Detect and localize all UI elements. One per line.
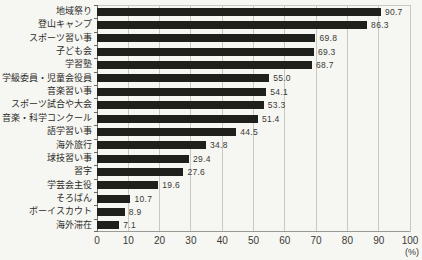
y-axis-tick — [94, 139, 97, 140]
y-axis-tick — [94, 58, 97, 59]
category-label: 学級委員・児童会役員 — [0, 72, 92, 85]
value-label: 34.8 — [210, 140, 228, 150]
value-label: 86.3 — [371, 20, 389, 30]
value-label: 69.8 — [319, 33, 337, 43]
value-label: 51.4 — [262, 114, 280, 124]
category-label: スポーツ習い事 — [0, 32, 92, 45]
value-label: 55.0 — [273, 73, 291, 83]
x-tick-label: 90 — [373, 235, 384, 246]
category-label: 海外旅行 — [0, 139, 92, 152]
bar — [97, 88, 266, 96]
y-axis-tick — [94, 32, 97, 33]
value-label: 54.1 — [270, 87, 288, 97]
y-axis-tick — [94, 85, 97, 86]
bar — [97, 195, 130, 203]
x-axis-line — [97, 231, 410, 232]
gridline — [316, 5, 317, 232]
bar — [97, 8, 381, 16]
y-axis-tick — [94, 165, 97, 166]
category-label: 海外滞在 — [0, 219, 92, 232]
category-label: 地域祭り — [0, 5, 92, 18]
y-axis-tick — [94, 205, 97, 206]
x-tick-label: 40 — [217, 235, 228, 246]
bar — [97, 208, 125, 216]
x-tick-label: 0 — [94, 235, 100, 246]
gridline — [347, 5, 348, 232]
gridline — [410, 5, 411, 232]
bar — [97, 115, 258, 123]
y-axis-tick — [94, 45, 97, 46]
x-tick-label: 60 — [279, 235, 290, 246]
category-label: 学習塾 — [0, 58, 92, 71]
bar — [97, 221, 119, 229]
y-axis-tick — [94, 179, 97, 180]
bar — [97, 48, 314, 56]
gridline — [378, 5, 379, 232]
y-axis-tick — [94, 125, 97, 126]
category-label: 音楽・科学コンクール — [0, 112, 92, 125]
bar — [97, 34, 315, 42]
value-label: 29.4 — [193, 154, 211, 164]
y-axis-tick — [94, 231, 97, 232]
bar — [97, 61, 312, 69]
category-label: スポーツ試合や大会 — [0, 98, 92, 111]
value-label: 90.7 — [385, 7, 403, 17]
category-label: 習字 — [0, 165, 92, 178]
value-label: 19.6 — [162, 180, 180, 190]
bar — [97, 141, 206, 149]
category-label: 球技習い事 — [0, 152, 92, 165]
y-axis-tick — [94, 219, 97, 220]
bar — [97, 74, 269, 82]
y-axis-tick — [94, 72, 97, 73]
x-tick-label: 20 — [154, 235, 165, 246]
x-tick-label: 30 — [185, 235, 196, 246]
plot-area: 90.786.369.869.368.755.054.153.351.444.5… — [97, 5, 410, 232]
bar — [97, 101, 264, 109]
y-axis-tick — [94, 112, 97, 113]
y-axis-tick — [94, 5, 97, 6]
value-label: 53.3 — [268, 100, 286, 110]
y-axis-tick — [94, 152, 97, 153]
y-axis-tick — [94, 18, 97, 19]
bar — [97, 21, 367, 29]
bar — [97, 168, 183, 176]
y-axis-tick — [94, 98, 97, 99]
y-axis-tick — [94, 192, 97, 193]
category-label: そろばん — [0, 192, 92, 205]
x-tick-label: 80 — [342, 235, 353, 246]
value-label: 8.9 — [129, 207, 142, 217]
category-label: 語学習い事 — [0, 125, 92, 138]
x-tick-label: 70 — [311, 235, 322, 246]
category-label: 子ども会 — [0, 45, 92, 58]
value-label: 7.1 — [123, 220, 136, 230]
x-tick-label: 50 — [248, 235, 259, 246]
value-label: 68.7 — [316, 60, 334, 70]
category-label: 音楽習い事 — [0, 85, 92, 98]
value-label: 69.3 — [318, 47, 336, 57]
bar-chart: 地域祭り登山キャンプスポーツ習い事子ども会学習塾学級委員・児童会役員音楽習い事ス… — [0, 0, 422, 260]
category-label: 登山キャンプ — [0, 18, 92, 31]
value-label: 10.7 — [134, 194, 152, 204]
x-tick-label: 100 — [402, 235, 419, 246]
bar — [97, 128, 236, 136]
x-tick-label: 10 — [123, 235, 134, 246]
value-label: 44.5 — [240, 127, 258, 137]
value-label: 27.6 — [187, 167, 205, 177]
x-axis-unit-label: (%) — [405, 247, 419, 257]
category-label: ボーイスカウト — [0, 205, 92, 218]
bar — [97, 155, 189, 163]
category-label: 学芸会主役 — [0, 179, 92, 192]
bar — [97, 181, 158, 189]
